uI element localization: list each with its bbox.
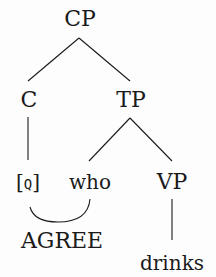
node-vp: VP — [157, 171, 188, 193]
edge-cp-tp — [79, 38, 130, 81]
node-who: who — [69, 172, 111, 192]
q-open-bracket: [ — [16, 170, 24, 194]
q-close-bracket: ] — [32, 170, 40, 194]
agree-arc — [30, 199, 90, 222]
node-drinks: drinks — [140, 253, 204, 273]
node-c: C — [21, 89, 38, 111]
node-tp: TP — [116, 89, 145, 111]
node-q-feature: [Q] — [16, 172, 40, 192]
agree-label: AGREE — [21, 230, 103, 252]
node-cp: CP — [64, 8, 96, 30]
edge-tp-vp — [130, 118, 172, 161]
edge-cp-c — [28, 38, 79, 81]
edge-tp-who — [89, 118, 130, 161]
syntax-tree-diagram: CP C TP [Q] who VP AGREE drinks — [0, 0, 216, 277]
q-feature-label: Q — [24, 176, 32, 192]
